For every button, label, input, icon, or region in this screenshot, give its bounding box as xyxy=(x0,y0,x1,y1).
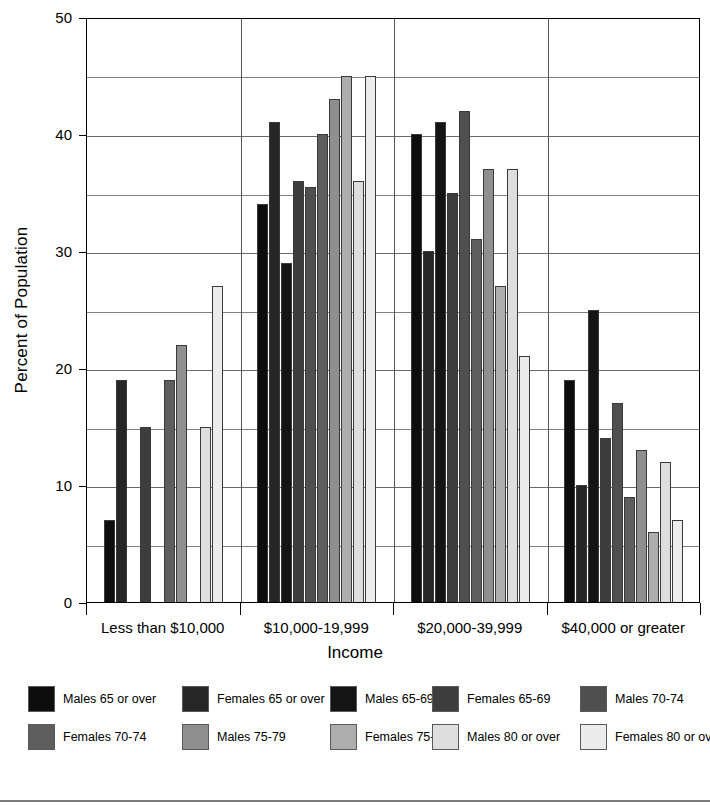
bottom-divider xyxy=(0,800,710,802)
bar[interactable] xyxy=(459,111,470,602)
bar[interactable] xyxy=(140,427,151,603)
legend-item[interactable]: Males 75-79 xyxy=(182,724,286,750)
chart-page: Percent of Population 01020304050 Less t… xyxy=(0,0,710,806)
bar[interactable] xyxy=(269,122,280,602)
legend-swatch-icon xyxy=(580,724,607,750)
legend-item[interactable]: Females 65 or over xyxy=(182,686,325,712)
bar[interactable] xyxy=(164,380,175,602)
x-tick-0 xyxy=(86,603,87,615)
bar-group-2 xyxy=(257,19,377,602)
x-category-label-2: $10,000-19,999 xyxy=(240,619,394,636)
bar[interactable] xyxy=(341,76,352,603)
bar[interactable] xyxy=(507,169,518,602)
y-axis-title-holder: Percent of Population xyxy=(0,0,40,620)
x-category-label-1: Less than $10,000 xyxy=(86,619,240,636)
bar[interactable] xyxy=(200,427,211,603)
bar[interactable] xyxy=(257,204,268,602)
x-category-label-4: $40,000 or greater xyxy=(547,619,701,636)
bar[interactable] xyxy=(624,497,635,602)
legend-swatch-icon xyxy=(182,724,209,750)
legend-swatch-icon xyxy=(432,686,459,712)
bar[interactable] xyxy=(564,380,575,602)
bar[interactable] xyxy=(305,187,316,602)
legend-swatch-icon xyxy=(182,686,209,712)
y-tick-label-40: 40 xyxy=(55,127,72,142)
legend-swatch-icon xyxy=(330,724,357,750)
bar[interactable] xyxy=(636,450,647,602)
bar[interactable] xyxy=(435,122,446,602)
y-tick-mark-20 xyxy=(79,369,86,370)
bar-chart: Percent of Population 01020304050 Less t… xyxy=(0,0,710,620)
bar[interactable] xyxy=(471,239,482,602)
bar[interactable] xyxy=(483,169,494,602)
bar[interactable] xyxy=(353,181,364,602)
legend-label: Males 80 or over xyxy=(467,730,560,744)
legend-swatch-icon xyxy=(28,686,55,712)
legend-label: Females 70-74 xyxy=(63,730,146,744)
legend-swatch-icon xyxy=(432,724,459,750)
legend-item[interactable]: Females 65-69 xyxy=(432,686,550,712)
bar[interactable] xyxy=(588,310,599,603)
category-separator-1 xyxy=(241,19,242,602)
legend-item[interactable]: Females 75-79 xyxy=(330,724,448,750)
bar[interactable] xyxy=(411,134,422,602)
bar[interactable] xyxy=(447,193,458,603)
bar[interactable] xyxy=(672,520,683,602)
y-axis-title: Percent of Population xyxy=(12,80,32,540)
y-tick-mark-30 xyxy=(79,252,86,253)
y-tick-label-10: 10 xyxy=(55,478,72,493)
category-separator-3 xyxy=(548,19,549,602)
y-tick-mark-50 xyxy=(79,18,86,19)
legend-item[interactable]: Males 65-69 xyxy=(330,686,434,712)
y-tick-label-20: 20 xyxy=(55,361,72,376)
legend-swatch-icon xyxy=(580,686,607,712)
x-category-label-3: $20,000-39,999 xyxy=(393,619,547,636)
bar[interactable] xyxy=(329,99,340,602)
x-tick-4 xyxy=(700,603,701,615)
x-tick-1 xyxy=(240,603,241,615)
bar[interactable] xyxy=(423,251,434,602)
legend-label: Females 65-69 xyxy=(467,692,550,706)
plot-area xyxy=(86,18,700,603)
bar[interactable] xyxy=(519,356,530,602)
legend-label: Males 70-74 xyxy=(615,692,684,706)
y-tick-label-30: 30 xyxy=(55,244,72,259)
chart-legend: Males 65 or overFemales 65 or overMales … xyxy=(0,686,710,764)
y-tick-mark-40 xyxy=(79,135,86,136)
legend-item[interactable]: Males 70-74 xyxy=(580,686,684,712)
bar[interactable] xyxy=(365,76,376,603)
bar[interactable] xyxy=(281,263,292,602)
bar[interactable] xyxy=(116,380,127,602)
bar-group-3 xyxy=(411,19,531,602)
legend-swatch-icon xyxy=(28,724,55,750)
bar[interactable] xyxy=(495,286,506,602)
legend-item[interactable]: Females 80 or over xyxy=(580,724,710,750)
legend-item[interactable]: Males 65 or over xyxy=(28,686,156,712)
legend-label: Males 65-69 xyxy=(365,692,434,706)
bar[interactable] xyxy=(648,532,659,602)
bar[interactable] xyxy=(576,485,587,602)
legend-label: Females 80 or over xyxy=(615,730,710,744)
legend-label: Males 75-79 xyxy=(217,730,286,744)
bar[interactable] xyxy=(317,134,328,602)
x-axis-title: Income xyxy=(0,643,710,663)
legend-item[interactable]: Females 70-74 xyxy=(28,724,146,750)
bar-group-4 xyxy=(564,19,684,602)
bar[interactable] xyxy=(104,520,115,602)
legend-row-1: Males 65 or overFemales 65 or overMales … xyxy=(0,686,710,718)
bar[interactable] xyxy=(176,345,187,602)
bar[interactable] xyxy=(293,181,304,602)
x-tick-3 xyxy=(547,603,548,615)
bar[interactable] xyxy=(600,438,611,602)
bar[interactable] xyxy=(660,462,671,602)
legend-label: Females 65 or over xyxy=(217,692,325,706)
legend-item[interactable]: Males 80 or over xyxy=(432,724,560,750)
legend-swatch-icon xyxy=(330,686,357,712)
x-tick-2 xyxy=(393,603,394,615)
y-tick-mark-10 xyxy=(79,486,86,487)
legend-label: Males 65 or over xyxy=(63,692,156,706)
bar[interactable] xyxy=(212,286,223,602)
bar[interactable] xyxy=(612,403,623,602)
category-separator-2 xyxy=(394,19,395,602)
legend-row-2: Females 70-74Males 75-79Females 75-79Mal… xyxy=(0,724,710,756)
